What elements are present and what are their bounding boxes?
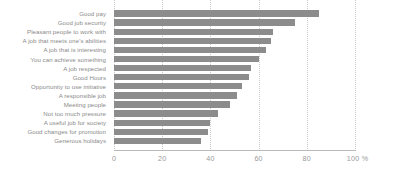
bar [114,65,251,71]
bar [114,56,259,62]
bar [114,83,242,89]
x-tick-value: 40 [206,154,214,163]
x-tick-value: 80 [303,154,311,163]
x-tick-label: 100% [347,154,369,163]
category-label: A responsible job [59,91,106,100]
bar-row [114,136,355,145]
x-axis-tick-labels: 020406080100% [0,154,404,168]
bar-row [114,36,355,45]
bar-row [114,100,355,109]
gridline-100 [355,0,356,151]
bar [114,129,208,135]
category-label: A job that is interesting [43,45,106,54]
bar [114,92,237,98]
category-label: Not too much pressure [43,109,106,118]
x-tick-value: 20 [158,154,166,163]
bar-row [114,91,355,100]
bar-chart: Good payGood job securityPleasant people… [0,0,404,184]
category-label: A useful job for society [44,118,106,127]
bar [114,101,230,107]
category-label: Good changes for promotion [27,127,106,136]
bar-row [114,18,355,27]
bar-row [114,109,355,118]
x-tick-label: 80 [303,154,311,163]
x-axis-line [114,150,356,151]
x-tick-value: 60 [254,154,262,163]
category-label: A job that meets one's abilities [23,36,106,45]
category-label: A job respected [63,64,106,73]
x-tick-value: 0 [112,154,116,163]
x-tick-label: 0 [112,154,116,163]
bar-row [114,45,355,54]
bar-row [114,73,355,82]
bar-row [114,27,355,36]
bar [114,74,249,80]
category-label: Good job security [58,18,106,27]
category-label-column: Good payGood job securityPleasant people… [0,9,110,151]
category-label: Good Hours [73,73,106,82]
bar [114,38,271,44]
bar [114,19,295,25]
bar [114,29,273,35]
bar [114,120,210,126]
x-tick-label: 40 [206,154,214,163]
x-axis-unit: % [362,154,369,163]
bar [114,47,266,53]
bar-row [114,82,355,91]
x-tick-value: 100 [347,154,360,163]
bar-row [114,55,355,64]
plot-area [114,0,355,151]
category-label: Meeting people [64,100,106,109]
bar-row [114,64,355,73]
bar-row [114,118,355,127]
bar-row [114,9,355,18]
bar [114,10,319,16]
category-label: Pleasant people to work with [27,27,106,36]
x-tick-label: 60 [254,154,262,163]
bar-row [114,127,355,136]
category-label: Opportunity to use initiative [31,82,106,91]
x-tick-label: 20 [158,154,166,163]
category-label: You can achieve something [30,55,106,64]
category-label: Good pay [79,9,106,18]
category-label: Generous holidays [54,136,106,145]
bar [114,138,201,144]
bar [114,110,218,116]
